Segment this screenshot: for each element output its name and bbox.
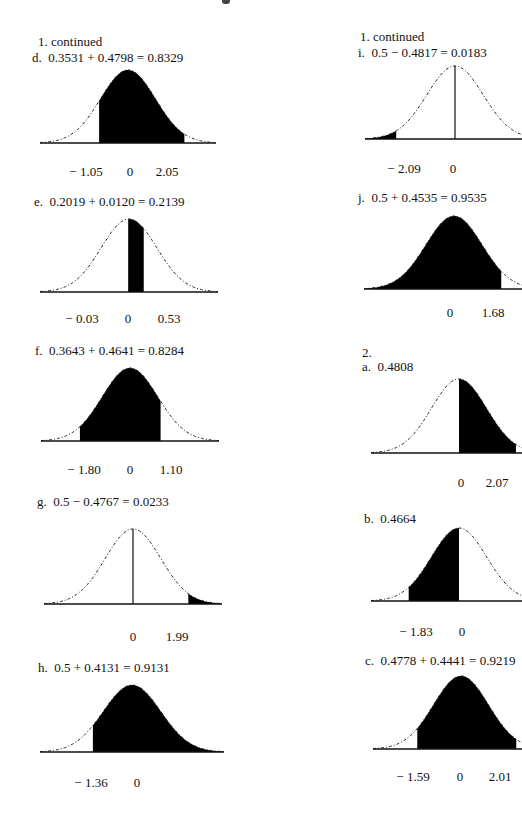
- normal-curve-e: [40, 219, 218, 292]
- normal-curve-2c: [373, 676, 522, 749]
- item-2c-title: c. 0.4778 + 0.4441 = 0.9219: [365, 653, 515, 668]
- item-label: e.: [34, 194, 43, 209]
- item-g-title: g. 0.5 − 0.4767 = 0.0233: [37, 494, 169, 509]
- normal-curve-d: [0, 0, 522, 813]
- tick-label: 0: [127, 164, 134, 180]
- tick-label: 1.10: [160, 462, 183, 478]
- normal-curve-f: [41, 368, 219, 441]
- item-equation: 0.5 − 0.4817 = 0.0183: [371, 45, 486, 60]
- right-header: 1. continued: [360, 29, 424, 44]
- section-2-header: 2.: [362, 345, 372, 360]
- shaded-area: [99, 70, 184, 143]
- item-label: a.: [362, 359, 371, 374]
- item-label: h.: [38, 660, 48, 675]
- tick-label: − 1.36: [74, 775, 107, 791]
- item-j-title: j. 0.5 + 0.4535 = 0.9535: [358, 190, 487, 205]
- tick-label: 0: [447, 305, 454, 321]
- item-label: b.: [364, 511, 374, 526]
- item-equation: 0.5 + 0.4131 = 0.9131: [54, 660, 169, 675]
- tick-label: − 1.05: [69, 164, 102, 180]
- tick-label: 0: [458, 475, 465, 491]
- item-label: c.: [365, 653, 374, 668]
- shaded-area: [417, 676, 516, 749]
- tick-label: 2.07: [486, 475, 509, 491]
- item-label: g.: [37, 494, 47, 509]
- item-equation: 0.3643 + 0.4641 = 0.8284: [49, 343, 184, 358]
- tick-label: − 1.83: [399, 624, 432, 640]
- tick-label: 0: [134, 775, 141, 791]
- tick-label: 1.68: [482, 305, 505, 321]
- item-equation: 0.5 + 0.4535 = 0.9535: [371, 190, 486, 205]
- tick-label: 0: [450, 161, 457, 177]
- tick-label: 1.99: [166, 629, 189, 645]
- tick-label: − 2.09: [387, 161, 420, 177]
- tick-label: 0: [459, 624, 466, 640]
- tick-label: 0: [457, 769, 464, 785]
- shaded-area: [93, 685, 224, 752]
- item-equation: 0.4778 + 0.4441 = 0.9219: [381, 653, 516, 668]
- tick-label: 2.01: [489, 769, 512, 785]
- tick-label: 0: [130, 629, 137, 645]
- tick-label: 0.53: [158, 311, 181, 327]
- shaded-area: [365, 131, 396, 139]
- shaded-area: [409, 528, 459, 601]
- item-label: i.: [358, 45, 365, 60]
- normal-curve-i: [365, 66, 522, 139]
- normal-curve-2b: [371, 528, 522, 601]
- normal-curve-g: [44, 529, 222, 604]
- tick-label: 0: [125, 311, 132, 327]
- shaded-area: [188, 594, 222, 604]
- item-2b-title: b. 0.4664: [364, 511, 416, 526]
- shaded-area: [364, 216, 501, 289]
- item-e-title: e. 0.2019 + 0.0120 = 0.2139: [34, 194, 184, 209]
- item-label: j.: [358, 190, 365, 205]
- item-label: f.: [35, 343, 43, 358]
- item-equation: 0.2019 + 0.0120 = 0.2139: [50, 194, 185, 209]
- normal-curve-d: [40, 70, 216, 143]
- item-equation: 0.4808: [378, 359, 414, 374]
- tick-label: 2.05: [156, 164, 179, 180]
- item-i-title: i. 0.5 − 0.4817 = 0.0183: [358, 45, 487, 60]
- item-2a-title: a. 0.4808: [362, 359, 413, 374]
- item-equation: 0.4664: [380, 511, 416, 526]
- tick-label: 0: [127, 462, 134, 478]
- normal-curve-h: [40, 685, 224, 752]
- item-equation: 0.5 − 0.4767 = 0.0233: [53, 494, 168, 509]
- item-h-title: h. 0.5 + 0.4131 = 0.9131: [38, 660, 170, 675]
- shaded-area: [80, 368, 161, 441]
- item-f-title: f. 0.3643 + 0.4641 = 0.8284: [35, 343, 184, 358]
- curve-outline: [365, 66, 522, 139]
- tick-label: − 1.80: [67, 462, 100, 478]
- shaded-area: [128, 219, 144, 292]
- normal-curve-2a: [371, 379, 522, 453]
- tick-label: − 1.59: [396, 769, 429, 785]
- shaded-area: [459, 379, 516, 453]
- normal-curve-j: [364, 216, 522, 289]
- tick-label: − 0.03: [65, 311, 98, 327]
